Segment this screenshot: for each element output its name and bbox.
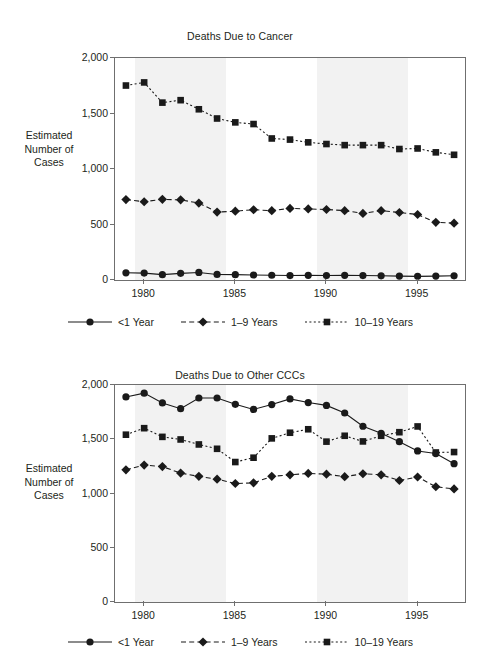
circle-marker [122, 269, 129, 276]
legend-label: <1 Year [118, 636, 154, 648]
diamond-marker [249, 205, 258, 214]
diamond-marker [285, 470, 294, 479]
series-layer [115, 58, 465, 280]
legend-otherccc: <1 Year1–9 Years10–19 Years [0, 635, 480, 649]
y-tick-label: 1,000 [68, 162, 108, 174]
diamond-marker [158, 195, 167, 204]
square-marker [159, 99, 166, 106]
diamond-marker [285, 204, 294, 213]
x-tick-mark [325, 601, 326, 606]
series-line-square [126, 82, 454, 154]
legend-circle-icon [67, 635, 113, 649]
diamond-marker [121, 195, 130, 204]
diamond-marker [231, 479, 240, 488]
legend-item[interactable]: <1 Year [67, 315, 154, 329]
diamond-marker [158, 462, 167, 471]
x-tick-label: 1995 [387, 609, 447, 621]
circle-marker [341, 272, 348, 279]
circle-marker [305, 399, 312, 406]
x-tick-label: 1985 [204, 609, 264, 621]
y-tick-mark [110, 601, 114, 602]
circle-marker [396, 273, 403, 280]
square-marker [196, 441, 203, 448]
diamond-marker [231, 207, 240, 216]
circle-marker [159, 271, 166, 278]
square-marker [396, 429, 403, 436]
square-marker [250, 121, 257, 128]
y-tick-label: 500 [68, 541, 108, 553]
diamond-marker [431, 218, 440, 227]
square-marker [196, 106, 203, 113]
legend-label: <1 Year [118, 316, 154, 328]
y-tick-mark [110, 57, 114, 58]
diamond-marker [377, 206, 386, 215]
circle-marker [414, 447, 421, 454]
series-layer [115, 385, 465, 602]
x-tick-label: 1980 [113, 609, 173, 621]
legend-item[interactable]: <1 Year [67, 635, 154, 649]
diamond-marker [176, 195, 185, 204]
legend-item[interactable]: 1–9 Years [180, 635, 278, 649]
diamond-marker [267, 206, 276, 215]
y-tick-mark [110, 547, 114, 548]
diamond-marker [267, 472, 276, 481]
legend-cancer: <1 Year1–9 Years10–19 Years [0, 315, 480, 329]
circle-marker [250, 406, 257, 413]
circle-marker [268, 401, 275, 408]
square-marker [214, 115, 221, 122]
x-tick-label: 1995 [387, 287, 447, 299]
circle-marker [86, 318, 93, 325]
circle-marker [141, 270, 148, 277]
diamond-marker [198, 317, 207, 326]
legend-square-icon [304, 315, 350, 329]
legend-item[interactable]: 10–19 Years [304, 635, 413, 649]
legend-label: 1–9 Years [231, 316, 278, 328]
square-marker [433, 449, 440, 456]
diamond-marker [121, 465, 130, 474]
x-tick-mark [234, 601, 235, 606]
diamond-marker [340, 472, 349, 481]
diamond-marker [212, 475, 221, 484]
diamond-marker [358, 469, 367, 478]
circle-marker [268, 272, 275, 279]
y-tick-mark [110, 168, 114, 169]
square-marker [123, 82, 130, 89]
diamond-marker [198, 637, 207, 646]
chart-title: Deaths Due to Cancer [0, 30, 480, 42]
y-tick-label: 0 [68, 273, 108, 285]
x-tick-mark [143, 601, 144, 606]
square-marker [232, 459, 239, 466]
square-marker [268, 135, 275, 142]
circle-marker [341, 409, 348, 416]
circle-marker [141, 390, 148, 397]
legend-item[interactable]: 10–19 Years [304, 315, 413, 329]
figure-deaths-due-to-other-cccs: Deaths Due to Other CCCs Estimated Numbe… [0, 340, 480, 659]
x-tick-mark [417, 279, 418, 284]
legend-item[interactable]: 1–9 Years [180, 315, 278, 329]
square-marker [323, 319, 330, 326]
square-marker [287, 429, 294, 436]
legend-diamond-icon [180, 315, 226, 329]
circle-marker [286, 272, 293, 279]
diamond-marker [140, 197, 149, 206]
square-marker [378, 432, 385, 439]
legend-label: 10–19 Years [355, 636, 413, 648]
diamond-marker [449, 219, 458, 228]
circle-marker [195, 269, 202, 276]
square-marker [305, 426, 312, 433]
circle-marker [286, 395, 293, 402]
plot-area-cancer [114, 57, 466, 281]
circle-marker [86, 638, 93, 645]
square-marker [323, 639, 330, 646]
square-marker [378, 142, 385, 149]
square-marker [414, 145, 421, 152]
circle-marker [414, 273, 421, 280]
circle-marker [359, 423, 366, 430]
y-tick-label: 2,000 [68, 51, 108, 63]
square-marker [268, 435, 275, 442]
diamond-marker [322, 205, 331, 214]
diamond-marker [431, 482, 440, 491]
diamond-marker [377, 470, 386, 479]
circle-marker [122, 393, 129, 400]
square-marker [360, 142, 367, 149]
